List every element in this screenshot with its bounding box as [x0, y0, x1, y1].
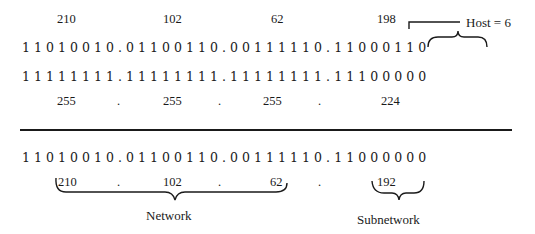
bracket-overlay [0, 0, 535, 234]
host-leader-line-icon [409, 22, 460, 29]
host-bits-bracket-icon [428, 31, 487, 47]
subnetwork-brace-icon [372, 181, 424, 200]
network-brace-icon [56, 178, 287, 200]
